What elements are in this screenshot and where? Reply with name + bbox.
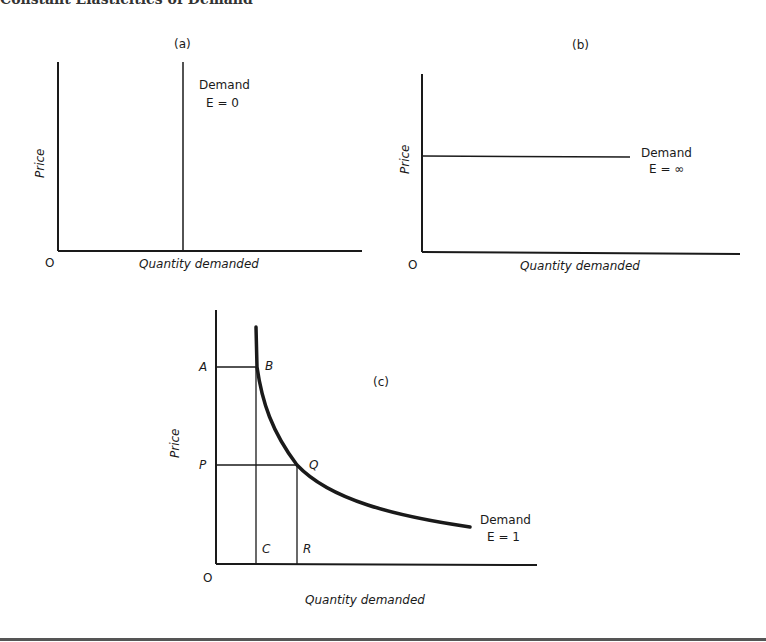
panel-b-origin-label: O [408, 258, 417, 272]
panel-c-y-axis-label: Price [168, 429, 182, 458]
point-Q-label: Q [309, 458, 318, 472]
panel-a-x-axis-label: Quantity demanded [139, 257, 259, 271]
bottom-divider [0, 638, 766, 641]
point-R-label: R [303, 542, 311, 556]
panel-b-demand-label: Demand [641, 146, 692, 160]
point-A-label: A [199, 360, 207, 374]
panel-b [422, 74, 740, 254]
panel-b-x-axis [422, 252, 740, 254]
panel-b-label: (b) [572, 38, 589, 52]
panel-c-elasticity-label: E = 1 [487, 530, 520, 544]
elasticity-diagrams [0, 0, 766, 642]
panel-c-x-axis [216, 564, 537, 565]
panel-a-demand-label: Demand [199, 78, 250, 92]
point-C-label: C [262, 542, 270, 556]
panel-c-demand-curve [256, 327, 470, 527]
panel-a-elasticity-label: E = 0 [206, 96, 239, 110]
panel-a-label: (a) [174, 37, 191, 51]
panel-c-origin-label: O [203, 571, 212, 585]
panel-a-origin-label: O [45, 256, 54, 270]
panel-c-label: (c) [373, 375, 389, 389]
panel-b-x-axis-label: Quantity demanded [520, 259, 640, 273]
point-P-label: P [199, 458, 206, 472]
panel-c-demand-label: Demand [480, 513, 531, 527]
panel-a-y-axis-label: Price [33, 149, 47, 178]
panel-b-elasticity-label: E = ∞ [649, 162, 684, 176]
panel-b-y-axis-label: Price [398, 145, 412, 174]
panel-c-x-axis-label: Quantity demanded [305, 593, 425, 607]
point-B-label: B [265, 359, 273, 373]
panel-b-demand-line [423, 156, 630, 157]
